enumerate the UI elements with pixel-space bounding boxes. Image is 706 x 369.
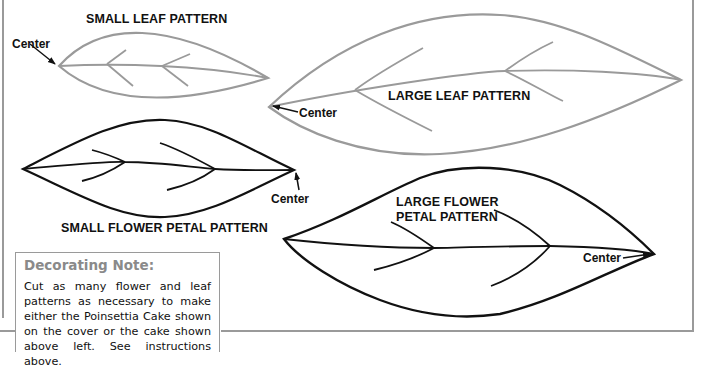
small-petal-center-label: Center bbox=[271, 193, 309, 205]
small-petal-center-arrow-icon bbox=[296, 173, 299, 190]
small-flower-petal-shape bbox=[23, 120, 294, 217]
large-petal-title-line2: PETAL PATTERN bbox=[396, 211, 498, 224]
large-leaf-center-label: Center bbox=[299, 107, 337, 119]
large-leaf-title: LARGE LEAF PATTERN bbox=[388, 90, 530, 103]
small-leaf-title: SMALL LEAF PATTERN bbox=[86, 13, 227, 26]
large-flower-petal-shape bbox=[284, 168, 654, 317]
note-body: Cut as many flower and leaf patterns as … bbox=[24, 279, 211, 369]
large-petal-center-label: Center bbox=[583, 252, 621, 264]
note-title: Decorating Note: bbox=[24, 258, 211, 274]
decorating-note-box: Decorating Note: Cut as many flower and … bbox=[15, 252, 220, 352]
large-petal-title-line1: LARGE FLOWER bbox=[396, 196, 499, 209]
small-leaf-center-label: Center bbox=[12, 38, 50, 50]
small-petal-title: SMALL FLOWER PETAL PATTERN bbox=[61, 222, 268, 235]
large-leaf-center-arrow-icon bbox=[273, 106, 298, 112]
large-leaf-shape bbox=[269, 14, 681, 154]
small-leaf-shape bbox=[59, 33, 268, 98]
